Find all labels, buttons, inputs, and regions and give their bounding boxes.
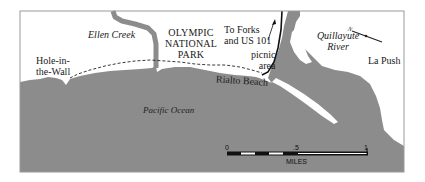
hole-label-line2: the-Wall (36, 66, 70, 77)
hole-in-the-wall-label: Hole-in- the-Wall (36, 55, 70, 77)
hole-label-line1: Hole-in- (36, 55, 70, 66)
scale-tick-half: .5 (293, 144, 299, 151)
forks-label-line1: To Forks (224, 24, 271, 35)
river-label-line1: Quillayute (312, 30, 364, 41)
river-label: Quillayute River (312, 30, 364, 52)
river-label-line2: River (312, 41, 364, 52)
scale-tick-1: 1 (364, 144, 368, 151)
forks-label-line2: and US 101 (224, 35, 271, 46)
ellen-creek-label: Ellen Creek (88, 30, 135, 40)
picnic-label-line2: area (251, 60, 275, 71)
picnic-area-label: picnic area (251, 49, 275, 71)
pacific-ocean-label: Pacific Ocean (143, 106, 194, 115)
forks-label: To Forks and US 101 (224, 24, 271, 46)
scale-tick-0: 0 (225, 144, 229, 151)
scale-unit-label: MILES (286, 158, 307, 165)
la-push-label: La Push (368, 56, 401, 66)
park-label-line2: NATIONAL (162, 38, 220, 49)
park-label-line3: PARK (162, 49, 220, 60)
park-label-line1: OLYMPIC (162, 27, 220, 38)
picnic-label-line1: picnic (251, 49, 275, 60)
park-label: OLYMPIC NATIONAL PARK (162, 27, 220, 60)
